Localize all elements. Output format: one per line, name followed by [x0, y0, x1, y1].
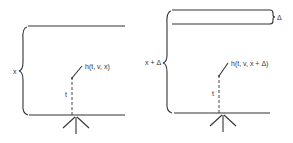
right-track-deflection: [219, 63, 228, 76]
diagram-canvas: x h(t, v, x) t x + Δ Δ h(t, v, x + Δ) t: [0, 0, 293, 143]
right-thickness-label: x + Δ: [145, 59, 161, 66]
extra-layer-label: Δ: [277, 14, 282, 21]
right-thickness-brace-icon: [163, 11, 172, 113]
left-deflection-point: [71, 77, 73, 79]
right-deflection-point: [218, 75, 220, 77]
left-thickness-brace-icon: [19, 27, 28, 115]
right-panel: x + Δ Δ h(t, v, x + Δ) t: [145, 10, 282, 132]
left-exit-label: h(t, v, x): [85, 63, 110, 71]
left-track-deflection: [72, 66, 82, 78]
extra-layer-brace-icon: [270, 10, 275, 24]
right-exit-label: h(t, v, x + Δ): [231, 60, 268, 68]
left-incident-arrows-icon: [63, 117, 89, 134]
right-path-length-label: t: [212, 90, 214, 97]
left-thickness-label: x: [13, 68, 17, 75]
left-path-length-label: t: [65, 91, 67, 98]
right-incident-arrows-icon: [210, 115, 236, 132]
left-panel: x h(t, v, x) t: [13, 26, 125, 134]
